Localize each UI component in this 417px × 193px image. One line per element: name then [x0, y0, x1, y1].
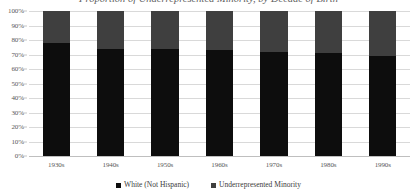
- y-axis-tick-mark: [24, 83, 27, 84]
- y-axis-tick-mark: [24, 127, 27, 128]
- x-axis-tick-label: 1940s: [83, 158, 137, 174]
- square-marker-icon: [116, 183, 121, 188]
- stacked-bar-chart: Proportion of Underrepresented Minority,…: [0, 0, 417, 193]
- y-axis-tick-mark: [24, 25, 27, 26]
- y-axis: 0%10%20%30%40%50%60%70%80%90%100%: [0, 11, 27, 156]
- bars-layer: [29, 11, 410, 156]
- y-axis-tick-mark: [24, 141, 27, 142]
- bar-slot: [301, 11, 355, 156]
- x-axis-tick-label: 1930s: [29, 158, 83, 174]
- y-axis-tick-label: 10%: [11, 138, 24, 146]
- x-axis-tick-label: 1960s: [192, 158, 246, 174]
- y-axis-tick-mark: [24, 112, 27, 113]
- y-axis-tick-mark: [24, 98, 27, 99]
- bar-segment-underrepresented-minority[interactable]: [206, 11, 233, 50]
- bar-slot: [192, 11, 246, 156]
- legend-item-label: Underrepresented Minority: [219, 180, 301, 190]
- y-axis-tick-label: 50%: [11, 80, 24, 88]
- y-axis-tick-label: 20%: [11, 123, 24, 131]
- x-axis: 1930s1940s1950s1960s1970s1980s1990s: [29, 158, 410, 174]
- y-axis-tick-label: 40%: [11, 94, 24, 102]
- bar-segment-white-not-hispanic[interactable]: [260, 52, 287, 156]
- bar-segment-white-not-hispanic[interactable]: [97, 49, 124, 156]
- x-axis-tick-label: 1950s: [138, 158, 192, 174]
- bar-slot: [247, 11, 301, 156]
- bar-segment-white-not-hispanic[interactable]: [369, 56, 396, 156]
- y-axis-tick-mark: [24, 69, 27, 70]
- stacked-bar[interactable]: [97, 11, 124, 156]
- stacked-bar[interactable]: [369, 11, 396, 156]
- legend-item-label: White (Not Hispanic): [124, 180, 189, 190]
- chart-title: Proportion of Underrepresented Minority,…: [0, 0, 417, 5]
- bar-segment-white-not-hispanic[interactable]: [151, 49, 178, 156]
- bar-segment-white-not-hispanic[interactable]: [43, 43, 70, 156]
- stacked-bar[interactable]: [315, 11, 342, 156]
- bar-segment-underrepresented-minority[interactable]: [260, 11, 287, 52]
- bar-segment-underrepresented-minority[interactable]: [315, 11, 342, 53]
- x-axis-tick-label: 1970s: [247, 158, 301, 174]
- y-axis-tick-mark: [24, 11, 27, 12]
- y-axis-tick-label: 0%: [15, 152, 24, 160]
- stacked-bar[interactable]: [206, 11, 233, 156]
- y-axis-tick-label: 60%: [11, 65, 24, 73]
- y-axis-tick-mark: [24, 40, 27, 41]
- stacked-bar[interactable]: [260, 11, 287, 156]
- gridline: [29, 156, 410, 157]
- bar-segment-underrepresented-minority[interactable]: [369, 11, 396, 56]
- bar-segment-underrepresented-minority[interactable]: [43, 11, 70, 43]
- y-axis-tick-label: 70%: [11, 51, 24, 59]
- x-axis-tick-label: 1990s: [356, 158, 410, 174]
- square-marker-icon: [211, 183, 216, 188]
- bar-slot: [29, 11, 83, 156]
- legend-item[interactable]: Underrepresented Minority: [211, 180, 301, 190]
- bar-segment-white-not-hispanic[interactable]: [206, 50, 233, 156]
- y-axis-tick-label: 90%: [11, 22, 24, 30]
- bar-slot: [138, 11, 192, 156]
- legend-item[interactable]: White (Not Hispanic): [116, 180, 189, 190]
- y-axis-tick-label: 80%: [11, 36, 24, 44]
- bar-segment-underrepresented-minority[interactable]: [97, 11, 124, 49]
- y-axis-tick-mark: [24, 54, 27, 55]
- y-axis-tick-label: 30%: [11, 109, 24, 117]
- bar-slot: [83, 11, 137, 156]
- bar-segment-white-not-hispanic[interactable]: [315, 53, 342, 156]
- y-axis-tick-label: 100%: [8, 7, 24, 15]
- chart-legend: White (Not Hispanic)Underrepresented Min…: [0, 179, 417, 191]
- x-axis-tick-label: 1980s: [301, 158, 355, 174]
- bar-slot: [356, 11, 410, 156]
- bar-segment-underrepresented-minority[interactable]: [151, 11, 178, 49]
- stacked-bar[interactable]: [151, 11, 178, 156]
- stacked-bar[interactable]: [43, 11, 70, 156]
- y-axis-tick-mark: [24, 156, 27, 157]
